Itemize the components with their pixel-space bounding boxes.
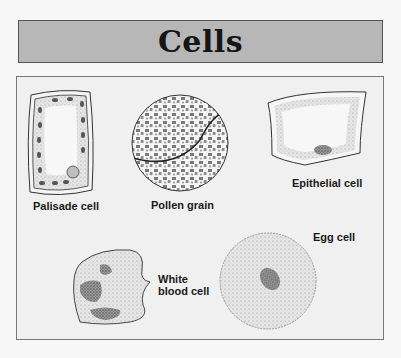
palisade-cell-drawing: [28, 91, 93, 195]
pollen-grain-drawing: [132, 95, 228, 191]
egg-cell-drawing: [220, 233, 316, 329]
white-blood-cell-label-line2: blood cell: [158, 285, 209, 298]
palisade-cell-label: Palisade cell: [33, 200, 99, 213]
white-blood-cell-drawing: [74, 250, 150, 324]
pollen-grain-label: Pollen grain: [151, 199, 214, 212]
epithelial-cell-label: Epithelial cell: [292, 177, 362, 190]
epithelial-cell-drawing: [268, 92, 366, 165]
egg-cell-label: Egg cell: [313, 231, 355, 244]
